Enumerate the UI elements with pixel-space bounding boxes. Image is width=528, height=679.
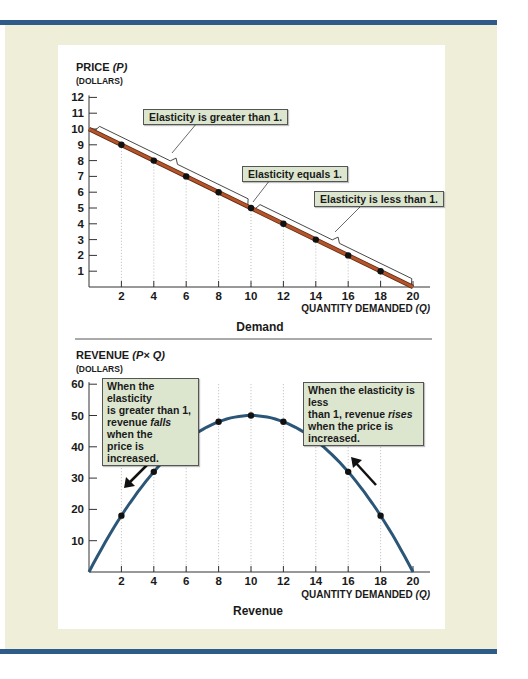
- svg-text:18: 18: [374, 575, 387, 587]
- svg-text:2: 2: [118, 575, 124, 587]
- revenue-caption: Revenue: [233, 604, 283, 618]
- note-line: price is increased.: [107, 440, 194, 464]
- svg-text:60: 60: [71, 378, 84, 390]
- svg-text:11: 11: [72, 107, 85, 119]
- svg-text:6: 6: [183, 290, 189, 302]
- svg-text:40: 40: [71, 441, 84, 453]
- svg-text:6: 6: [183, 575, 189, 587]
- svg-text:9: 9: [78, 139, 84, 151]
- note-line: is greater than 1,: [107, 404, 194, 416]
- svg-text:4: 4: [78, 218, 85, 230]
- svg-text:50: 50: [71, 410, 84, 422]
- note-elasticity-less: Elasticity is less than 1.: [314, 191, 444, 207]
- note-revenue-falls: When the elasticity is greater than 1, r…: [102, 378, 199, 466]
- svg-text:2: 2: [78, 249, 84, 261]
- svg-text:8: 8: [78, 155, 85, 167]
- svg-text:10: 10: [245, 575, 258, 587]
- note-line: when the price is increased.: [308, 420, 419, 444]
- svg-text:1: 1: [78, 265, 85, 277]
- note-revenue-rises: When the elasticity is less than 1, reve…: [303, 382, 424, 446]
- demand-y-axis-title: PRICE (P): [76, 61, 128, 73]
- svg-text:6: 6: [78, 186, 84, 198]
- svg-text:12: 12: [71, 91, 84, 103]
- svg-text:2: 2: [118, 290, 124, 302]
- svg-text:8: 8: [215, 575, 222, 587]
- demand-x-axis-title: QUANTITY DEMANDED (Q): [301, 303, 430, 314]
- figure-canvas: PRICE (P) (DOLLARS) 12345678910111224681…: [0, 0, 528, 679]
- svg-text:12: 12: [277, 575, 290, 587]
- note-elasticity-equals: Elasticity equals 1.: [242, 166, 348, 182]
- demand-caption: Demand: [236, 320, 283, 334]
- svg-text:10: 10: [245, 290, 258, 302]
- svg-text:14: 14: [309, 575, 322, 587]
- svg-text:10: 10: [71, 535, 84, 547]
- revenue-x-axis-title: QUANTITY DEMANDED (Q): [301, 589, 430, 600]
- revenue-y-axis-title: REVENUE (P× Q): [76, 349, 165, 361]
- demand-y-axis-units: (DOLLARS): [76, 76, 123, 86]
- svg-text:20: 20: [407, 290, 420, 302]
- svg-text:3: 3: [78, 234, 84, 246]
- note-line: When the elasticity is less: [308, 384, 419, 408]
- svg-text:4: 4: [151, 290, 158, 302]
- revenue-y-axis-units: (DOLLARS): [76, 364, 123, 374]
- note-line: revenue falls when the: [107, 416, 194, 440]
- svg-text:20: 20: [407, 575, 420, 587]
- svg-text:16: 16: [342, 290, 355, 302]
- svg-text:20: 20: [71, 503, 84, 515]
- svg-text:12: 12: [277, 290, 290, 302]
- svg-text:4: 4: [151, 575, 158, 587]
- svg-text:16: 16: [342, 575, 355, 587]
- svg-text:7: 7: [78, 170, 84, 182]
- note-elasticity-greater: Elasticity is greater than 1.: [143, 109, 288, 125]
- svg-text:8: 8: [215, 290, 222, 302]
- svg-text:5: 5: [78, 202, 85, 214]
- svg-text:18: 18: [374, 290, 387, 302]
- svg-text:10: 10: [71, 123, 84, 135]
- note-line: When the elasticity: [107, 380, 194, 404]
- svg-text:30: 30: [71, 472, 84, 484]
- svg-text:14: 14: [309, 290, 322, 302]
- note-line: than 1, revenue rises: [308, 408, 419, 420]
